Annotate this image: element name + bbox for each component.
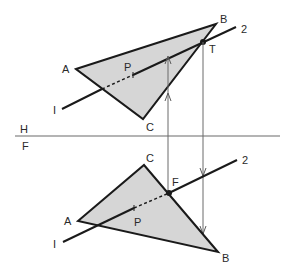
front-piercing-point-dot [166,190,172,196]
top-label-b: B [220,13,227,25]
top-label-a: A [62,63,70,75]
piercing-point-diagram: A B C P T I 2 H F A B C P F I 2 [0,0,294,272]
top-label-c: C [146,121,154,133]
top-view [62,24,236,119]
front-label-line-end-1: I [53,238,56,250]
fold-label-f: F [22,140,29,152]
top-label-p: P [124,61,131,73]
front-label-line-end-2: 2 [242,154,248,166]
front-label-f: F [172,176,179,188]
front-label-a: A [64,215,72,227]
top-plane-abc [76,24,216,119]
front-label-p: P [134,216,141,228]
top-line-segment-1 [62,89,102,109]
front-label-b: B [222,252,229,264]
fold-label-h: H [20,123,28,135]
front-view [63,160,237,252]
top-label-line-end-2: 2 [241,23,247,35]
top-label-line-end-1: I [53,104,56,116]
front-plane-abc [78,165,218,252]
front-label-c: C [146,152,154,164]
top-label-t: T [209,43,216,55]
